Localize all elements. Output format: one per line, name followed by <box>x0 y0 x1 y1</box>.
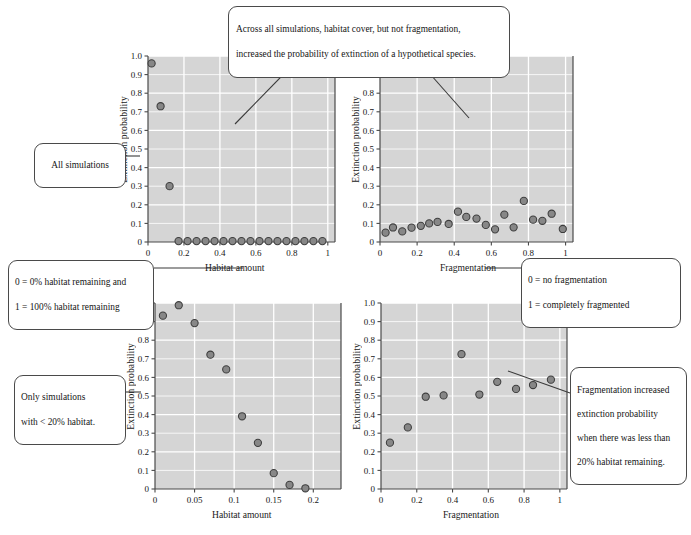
x-tick-label: 1 <box>563 248 568 258</box>
callout-main-summary: Across all simulations, habitat cover, b… <box>228 6 510 78</box>
x-tick-label: 1 <box>326 248 331 258</box>
x-tick-label: 0.6 <box>486 248 498 258</box>
y-tick-label: 0.3 <box>364 428 376 438</box>
data-point <box>175 237 182 244</box>
y-tick-label: 1.0 <box>131 51 143 61</box>
x-tick-label: 0.1 <box>229 495 240 505</box>
data-point <box>417 222 424 229</box>
data-point <box>559 225 566 232</box>
x-tick-label: 0.4 <box>449 248 461 258</box>
data-point <box>310 237 317 244</box>
y-axis-label-top-right: Extinction probability <box>350 96 361 183</box>
data-point <box>473 215 480 222</box>
data-point <box>445 220 452 227</box>
x-tick-label: 0 <box>378 248 383 258</box>
y-tick-label: 0.3 <box>138 428 150 438</box>
data-point <box>148 60 155 67</box>
data-point <box>220 237 227 244</box>
y-tick-label: 0.8 <box>364 335 376 345</box>
data-point <box>463 213 470 220</box>
y-tick-label: 0.7 <box>138 354 150 364</box>
y-tick-label: 0.6 <box>131 126 143 136</box>
callout-fragmentation-increase-line3: when there was less than <box>577 432 680 444</box>
y-tick-label: 0.8 <box>363 88 375 98</box>
data-point <box>159 312 166 319</box>
data-point <box>501 211 508 218</box>
y-tick-label: 0.9 <box>364 317 376 327</box>
data-point <box>157 103 164 110</box>
callout-fragmentation-increase-line1: Fragmentation increased <box>577 384 680 396</box>
x-tick-label: 0.6 <box>250 248 262 258</box>
data-point <box>274 237 281 244</box>
x-tick-label: 0.05 <box>187 495 203 505</box>
y-tick-label: 0.6 <box>364 373 376 383</box>
y-tick-label: 0.1 <box>364 466 375 476</box>
x-tick-label: 0.6 <box>483 495 495 505</box>
data-point <box>548 210 555 217</box>
x-tick-label: 0.15 <box>266 495 282 505</box>
y-axis-label-bottom-left: Extinction probability <box>125 343 136 430</box>
y-tick-label: 0.6 <box>363 126 375 136</box>
figure-container: 00.10.20.30.40.50.60.70.80.91.000.20.40.… <box>0 0 691 535</box>
data-point <box>265 237 272 244</box>
x-axis-label-bottom-left: Habitat amount <box>212 509 271 520</box>
data-point <box>166 183 173 190</box>
x-axis-label-bottom-right: Fragmentation <box>443 509 499 520</box>
data-point <box>389 224 396 231</box>
data-point <box>247 237 254 244</box>
data-point <box>229 237 236 244</box>
data-point <box>319 237 326 244</box>
data-point <box>530 216 537 223</box>
y-tick-label: 0.3 <box>131 181 143 191</box>
data-point <box>302 485 309 492</box>
y-tick-label: 0.7 <box>364 354 376 364</box>
x-axis-label-top-left: Habitat amount <box>205 262 264 273</box>
y-tick-label: 0 <box>370 237 375 247</box>
data-point <box>458 351 465 358</box>
x-tick-label: 0.4 <box>214 248 226 258</box>
callout-habitat-definition-line1: 0 = 0% habitat remaining and <box>15 276 147 288</box>
data-point <box>408 224 415 231</box>
data-point <box>283 237 290 244</box>
data-point <box>440 392 447 399</box>
data-point <box>386 439 393 446</box>
data-point <box>454 208 461 215</box>
callout-all-simulations-line1: All simulations <box>39 159 121 171</box>
callout-only-simulations: Only simulations with < 20% habitat. <box>14 375 126 445</box>
callout-main-line1: Across all simulations, habitat cover, b… <box>236 23 502 35</box>
y-tick-label: 0.5 <box>138 391 150 401</box>
callout-all-simulations: All simulations <box>34 143 126 188</box>
callout-only-simulations-line2: with < 20% habitat. <box>21 416 119 428</box>
x-axis-label-top-right: Fragmentation <box>440 262 496 273</box>
data-point <box>193 237 200 244</box>
data-point <box>422 393 429 400</box>
y-tick-label: 0.4 <box>138 410 150 420</box>
data-point <box>175 302 182 309</box>
y-tick-label: 0.1 <box>138 466 149 476</box>
panel-top-left: 00.10.20.30.40.50.60.70.80.91.000.20.40.… <box>131 51 335 257</box>
y-tick-label: 0.2 <box>364 447 375 457</box>
y-tick-label: 0.1 <box>131 219 142 229</box>
y-tick-label: 0.6 <box>138 373 150 383</box>
x-tick-label: 0.8 <box>523 248 535 258</box>
y-tick-label: 0.4 <box>364 410 376 420</box>
data-point <box>494 378 501 385</box>
data-point <box>476 391 483 398</box>
data-point <box>529 381 536 388</box>
x-tick-label: 0.2 <box>411 248 422 258</box>
data-point <box>292 237 299 244</box>
panel-bottom-right: 00.10.20.30.40.50.60.70.80.91.000.20.40.… <box>364 298 567 504</box>
data-point <box>520 197 527 204</box>
data-point <box>254 439 261 446</box>
data-point <box>510 224 517 231</box>
data-point <box>211 237 218 244</box>
data-point <box>512 385 519 392</box>
callout-fragmentation-definition: 0 = no fragmentation 1 = completely frag… <box>521 258 681 328</box>
data-point <box>404 424 411 431</box>
callout-main-line2: increased the probability of extinction … <box>236 48 502 60</box>
y-tick-label: 0.4 <box>131 163 143 173</box>
y-tick-label: 0.4 <box>363 163 375 173</box>
panel-top-right: 00.10.20.30.40.50.60.70.80.91.000.20.40.… <box>363 51 573 257</box>
data-point <box>191 319 198 326</box>
callout-habitat-definition-line2: 1 = 100% habitat remaining <box>15 301 147 313</box>
